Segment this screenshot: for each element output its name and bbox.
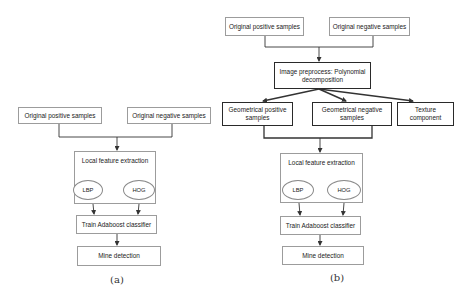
b-mine-detection-label: Mine detection [302, 252, 344, 260]
a-mine-detection-box: Mine detection [77, 246, 161, 266]
a-original-positive-label: Original positive samples [24, 112, 95, 120]
a-hog-ellipse: HOG [123, 180, 155, 200]
b-lbp-label: LBP [293, 187, 304, 193]
b-geo-positive-box: Geometrical positive samples [222, 102, 293, 126]
caption-b: (b) [330, 272, 344, 283]
b-texture-box: Texture component [397, 102, 454, 126]
b-original-positive-label: Original positive samples [229, 23, 300, 31]
caption-a: (a) [110, 274, 124, 285]
b-train-box: Train Adaboost classifier [280, 216, 361, 235]
b-hog-label: HOG [337, 187, 350, 193]
b-texture-line1: Texture [415, 106, 436, 114]
b-geo-negative-box: Geometrical negative samples [312, 102, 392, 126]
b-original-negative-label: Original negative samples [333, 23, 407, 31]
a-original-negative-box: Original negative samples [127, 107, 211, 124]
figure-canvas: Original positive samples Original negat… [0, 0, 470, 302]
b-local-feature-label: Local feature extraction [288, 159, 354, 167]
b-original-negative-box: Original negative samples [329, 17, 410, 36]
b-preprocess-box: Image preprocess: Polynomial decompositi… [274, 62, 371, 89]
a-lbp-label: LBP [83, 187, 94, 193]
a-lbp-ellipse: LBP [73, 180, 103, 200]
a-hog-label: HOG [132, 187, 145, 193]
a-train-label: Train Adaboost classifier [82, 221, 151, 229]
a-original-negative-label: Original negative samples [132, 112, 206, 120]
b-preprocess-line2: decomposition [302, 76, 343, 84]
b-geo-positive-line2: samples [246, 114, 270, 122]
b-geo-negative-line1: Geometrical negative [322, 106, 382, 114]
a-original-positive-box: Original positive samples [18, 107, 102, 124]
b-train-label: Train Adaboost classifier [286, 222, 355, 230]
b-geo-positive-line1: Geometrical positive [229, 106, 287, 114]
b-texture-line2: component [410, 114, 442, 122]
a-train-box: Train Adaboost classifier [76, 215, 157, 234]
a-local-feature-label: Local feature extraction [82, 157, 148, 165]
b-preprocess-line1: Image preprocess: Polynomial [280, 68, 366, 76]
connector-lines [0, 0, 470, 302]
b-original-positive-box: Original positive samples [225, 17, 304, 36]
b-hog-ellipse: HOG [327, 180, 361, 200]
b-lbp-ellipse: LBP [282, 180, 314, 200]
a-mine-detection-label: Mine detection [98, 252, 140, 260]
b-geo-negative-line2: samples [340, 114, 364, 122]
b-mine-detection-box: Mine detection [282, 246, 364, 265]
